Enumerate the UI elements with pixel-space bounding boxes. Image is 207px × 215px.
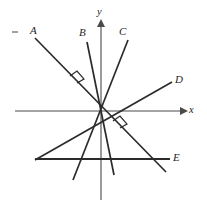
line-label-b: B xyxy=(79,27,86,38)
line-d xyxy=(35,82,172,160)
x-axis-label: x xyxy=(189,105,194,116)
line-label-c: C xyxy=(119,26,126,37)
y-axis-arrowhead xyxy=(97,19,105,27)
line-label-e: E xyxy=(173,152,180,163)
right-angle-marker-lower-right xyxy=(113,116,127,128)
line-label-d: D xyxy=(175,74,183,85)
line-label-a: A xyxy=(30,25,37,36)
y-axis-label: y xyxy=(97,7,102,18)
geometry-figure: A B C D E x y xyxy=(0,0,207,215)
x-axis-arrowhead xyxy=(180,107,188,115)
